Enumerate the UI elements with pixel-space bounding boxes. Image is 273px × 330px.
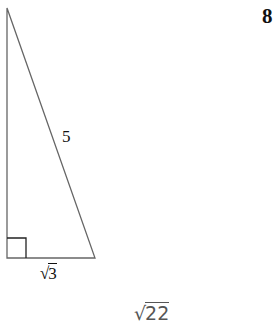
answer-value: √ 22: [134, 302, 169, 323]
base-radicand: 3: [48, 263, 57, 282]
answer-radicand: 22: [145, 302, 169, 323]
problem-number: 8: [262, 6, 273, 27]
hypotenuse-label: 5: [62, 128, 71, 145]
triangle-outline: [7, 8, 95, 258]
right-angle-marker: [7, 238, 26, 258]
base-radical: √ 3: [40, 263, 57, 282]
base-label: √ 3: [40, 263, 57, 282]
answer-radical: √ 22: [134, 302, 169, 323]
